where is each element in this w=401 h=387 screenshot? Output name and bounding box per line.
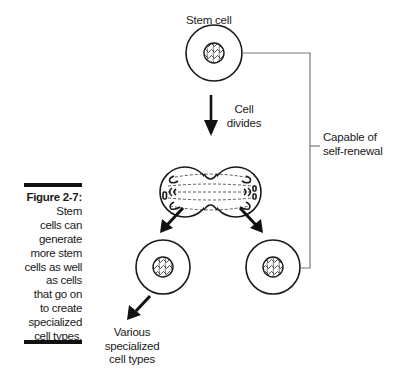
cell-divides-label: Cell divides xyxy=(222,103,266,130)
arrow-to-specialized-icon xyxy=(127,296,150,320)
cell-divides-line2: divides xyxy=(222,117,266,131)
left-daughter-cell-icon xyxy=(136,240,190,294)
self-renewal-line2: self-renewal xyxy=(323,145,383,159)
specialized-cell-types-label: Various specialized cell types xyxy=(92,326,172,367)
stem-cell-icon xyxy=(186,25,242,81)
divide-arrow-icon xyxy=(204,95,218,136)
stem-cell-diagram xyxy=(0,0,401,387)
self-renewal-line1: Capable of xyxy=(323,131,383,145)
right-daughter-cell-icon xyxy=(246,240,300,294)
self-renewal-bracket xyxy=(242,53,320,268)
specialized-line2: specialized xyxy=(92,340,172,354)
cell-divides-line1: Cell xyxy=(222,103,266,117)
self-renewal-label: Capable of self-renewal xyxy=(323,131,383,158)
dividing-cell-icon xyxy=(160,167,261,217)
specialized-line1: Various xyxy=(92,326,172,340)
specialized-line3: cell types xyxy=(92,353,172,367)
stem-cell-label: Stem cell xyxy=(186,14,232,28)
